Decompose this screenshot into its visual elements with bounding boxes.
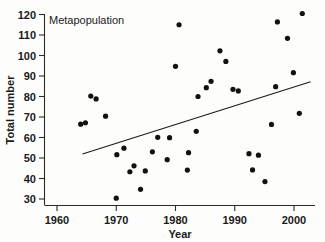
- data-point: [194, 129, 199, 134]
- plot-title-group: Metapopulation: [49, 14, 124, 26]
- data-point: [173, 64, 178, 69]
- x-tick-group: 19601970198019902000: [45, 206, 306, 227]
- data-points: [78, 11, 305, 201]
- y-tick-label-90: 90: [24, 70, 36, 82]
- data-point: [114, 196, 119, 201]
- data-point: [186, 150, 191, 155]
- data-point: [143, 168, 148, 173]
- x-axis-title: Year: [168, 228, 192, 240]
- y-tick-label-30: 30: [24, 193, 36, 205]
- data-point: [230, 87, 235, 92]
- data-point: [185, 167, 190, 172]
- data-point: [78, 122, 83, 127]
- y-tick-label-70: 70: [24, 111, 36, 123]
- data-point: [275, 19, 280, 24]
- y-axis-title: Total number: [4, 75, 16, 145]
- data-point: [131, 163, 136, 168]
- x-tick-label-2000: 2000: [282, 214, 306, 226]
- data-point: [285, 36, 290, 41]
- data-point: [297, 111, 302, 116]
- y-tick-label-40: 40: [24, 173, 36, 185]
- x-tick-label-1960: 1960: [45, 214, 69, 226]
- regression-trend-line: [82, 82, 310, 154]
- data-point: [167, 135, 172, 140]
- x-tick-label-1990: 1990: [223, 214, 247, 226]
- x-tick-label-1970: 1970: [104, 214, 128, 226]
- x-tick-label-1980: 1980: [163, 214, 187, 226]
- y-tick-group: 30405060708090100110120: [18, 9, 45, 206]
- y-tick-label-60: 60: [24, 132, 36, 144]
- data-point: [204, 85, 209, 90]
- data-point: [103, 114, 108, 119]
- y-axis: 30405060708090100110120 Total number: [4, 9, 45, 206]
- data-point: [150, 149, 155, 154]
- data-point: [273, 84, 278, 89]
- scatter-plot-figure: Metapopulation 30405060708090100110120 T…: [0, 0, 325, 242]
- data-point: [83, 120, 88, 125]
- data-point: [291, 70, 296, 75]
- data-point: [176, 22, 181, 27]
- data-point: [217, 48, 222, 53]
- data-point: [236, 88, 241, 93]
- data-point: [94, 96, 99, 101]
- data-point: [155, 135, 160, 140]
- data-point: [262, 179, 267, 184]
- y-tick-label-120: 120: [18, 9, 36, 21]
- data-point: [121, 146, 126, 151]
- data-point: [208, 79, 213, 84]
- plot-title: Metapopulation: [49, 14, 124, 26]
- y-tick-label-80: 80: [24, 91, 36, 103]
- data-point: [246, 151, 251, 156]
- data-point: [250, 167, 255, 172]
- data-point: [223, 59, 228, 64]
- data-point: [138, 187, 143, 192]
- chart-canvas: Metapopulation 30405060708090100110120 T…: [0, 0, 325, 242]
- data-point: [165, 157, 170, 162]
- data-point: [114, 152, 119, 157]
- x-axis: 19601970198019902000 Year: [45, 206, 316, 241]
- y-tick-label-100: 100: [18, 50, 36, 62]
- y-tick-label-50: 50: [24, 152, 36, 164]
- data-point: [256, 153, 261, 158]
- data-point: [195, 94, 200, 99]
- data-point: [88, 93, 93, 98]
- data-point: [269, 122, 274, 127]
- data-point: [300, 11, 305, 16]
- data-point: [127, 169, 132, 174]
- y-tick-label-110: 110: [18, 29, 36, 41]
